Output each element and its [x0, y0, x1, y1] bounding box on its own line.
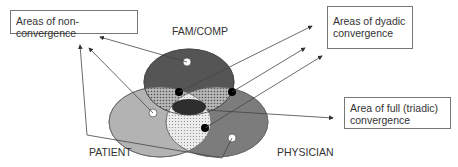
dyadic-callout: Areas of dyadic convergence [327, 6, 413, 49]
patient-label: PATIENT [89, 146, 132, 158]
non-convergence-text: Areas of non-convergence [16, 15, 79, 39]
triadic-text-line2: convergence [350, 114, 445, 126]
dyadic-text-line2: convergence [333, 27, 407, 39]
triadic-callout: Area of full (triadic) convergence [344, 97, 451, 129]
fam-comp-label: FAM/COMP [172, 25, 228, 37]
non-convergence-callout: Areas of non-convergence [10, 10, 138, 34]
physician-label: PHYSICIAN [277, 146, 334, 158]
dyadic-text-line1: Areas of dyadic [333, 15, 407, 27]
triadic-convergence-area [172, 99, 206, 115]
triadic-text-line1: Area of full (triadic) [350, 102, 445, 114]
